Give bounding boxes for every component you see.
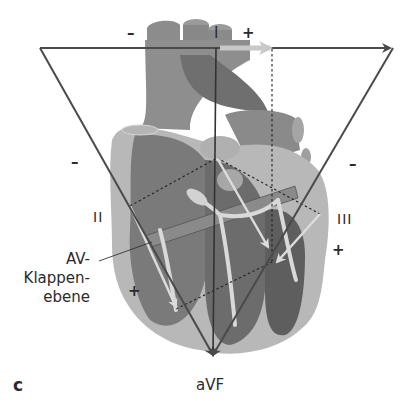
lead-I-label: I <box>214 26 219 41</box>
lead-I-positive-sign: + <box>242 26 255 41</box>
lead-II-positive-sign: + <box>128 284 141 299</box>
lead-I-negative-sign: – <box>127 26 135 41</box>
av-label-line2: Klappen- <box>14 269 90 288</box>
av-label-line1: AV- <box>14 250 90 269</box>
einthoven-triangle-diagram: – I + – – II III + + AV- Klappen- ebene … <box>0 0 404 401</box>
heart-illustration <box>0 0 404 401</box>
av-valve-plane-label: AV- Klappen- ebene <box>14 250 90 307</box>
lead-III-positive-sign: + <box>332 243 345 258</box>
lead-III-negative-sign: – <box>349 157 357 172</box>
av-label-line3: ebene <box>14 288 90 307</box>
panel-label: c <box>13 377 23 394</box>
aortic-valve <box>200 136 240 160</box>
lead-aVF-label: aVF <box>196 378 224 393</box>
lead-II-label: II <box>93 210 103 224</box>
lead-III-label: III <box>337 212 352 226</box>
lead-II-negative-sign: – <box>71 155 79 170</box>
